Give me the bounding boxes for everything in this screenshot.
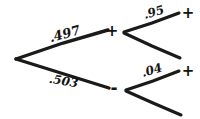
leaf-lower-upper-plus: + — [182, 62, 195, 80]
edge-lower-to-lower-leaf — [126, 91, 181, 115]
tree-canvas: + - + + .497 .503 .95 .04 — [0, 0, 200, 119]
edge-upper-to-lower-leaf — [124, 33, 180, 58]
node-upper-plus: + — [106, 22, 119, 40]
node-lower-minus: - — [110, 78, 117, 98]
leaf-upper-upper-plus: + — [182, 4, 195, 22]
probability-tree-diagram: + - + + .497 .503 .95 .04 — [0, 0, 200, 119]
edge-label-root-lower: .503 — [48, 72, 79, 90]
